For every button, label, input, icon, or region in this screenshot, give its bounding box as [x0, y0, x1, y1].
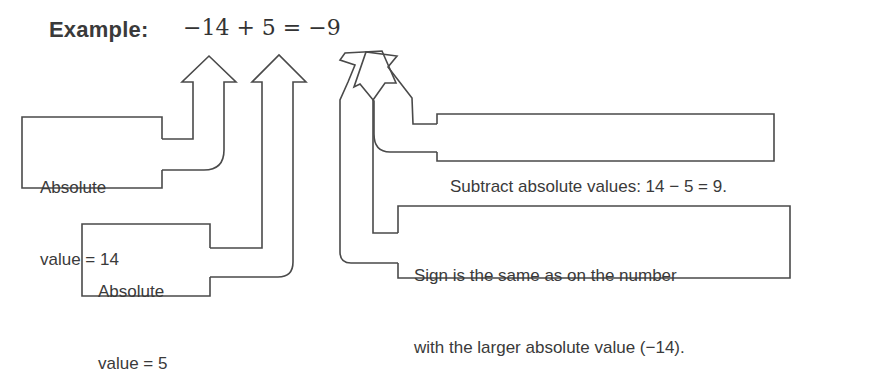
example-title: Example: — [49, 17, 148, 43]
callout-abs5-line1: Absolute — [98, 280, 167, 304]
callout-subtract-line1: Subtract absolute values: 14 − 5 = 9. — [450, 175, 727, 199]
arrow-to-sign — [340, 51, 398, 263]
arrow-to-9 — [354, 52, 437, 152]
callout-abs5-line2: value = 5 — [98, 352, 167, 373]
callout-abs5: Absolute value = 5 — [98, 232, 167, 373]
callout-sign-line2: with the larger absolute value (−14). — [414, 336, 685, 360]
callout-sign: Sign is the same as on the number with t… — [414, 216, 685, 373]
callout-abs14-line1: Absolute — [40, 176, 119, 200]
callout-sign-line1: Sign is the same as on the number — [414, 264, 685, 288]
equation: −14 + 5 = −9 — [183, 15, 341, 40]
arrow-to-14 — [162, 56, 236, 170]
